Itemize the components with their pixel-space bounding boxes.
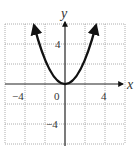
tick-origin: 0 [54, 90, 60, 102]
y-tick-4: 4 [55, 38, 61, 50]
parabola-chart: y x −4 0 4 4 −4 [0, 0, 137, 148]
y-tick-neg4: −4 [46, 118, 58, 130]
x-tick-neg4: −4 [12, 90, 24, 102]
x-tick-4: 4 [101, 90, 107, 102]
x-axis-label: x [126, 77, 134, 92]
y-axis-label: y [59, 6, 68, 21]
